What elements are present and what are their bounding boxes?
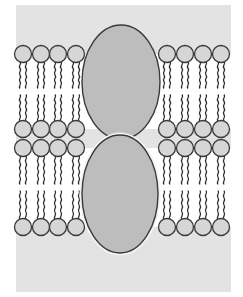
lipid-tail [163, 95, 164, 122]
phospholipid-head [195, 219, 212, 236]
lipid-tail [60, 191, 61, 220]
phospholipid-head [213, 46, 230, 63]
lipid-tail [181, 95, 182, 122]
lipid-tail [223, 95, 224, 122]
lipid-tail [223, 156, 224, 185]
lipid-tail [25, 156, 26, 185]
lipid-tail [169, 95, 170, 122]
phospholipid-head [50, 46, 67, 63]
lipid-tail [181, 191, 182, 220]
lipid-tail [78, 156, 79, 185]
lipid-tail [187, 191, 188, 220]
lipid-tail [54, 156, 55, 185]
phospholipid-head [50, 140, 67, 157]
lipid-tail [37, 191, 38, 220]
phospholipid-head [68, 219, 85, 236]
lipid-tail [37, 156, 38, 185]
lipid-tail [217, 62, 218, 89]
lipid-tail [205, 156, 206, 185]
phospholipid-head [177, 121, 194, 138]
lipid-tail [199, 95, 200, 122]
phospholipid-head [177, 140, 194, 157]
lipid-tail [163, 62, 164, 89]
phospholipid-head [50, 121, 67, 138]
phospholipid-head [159, 46, 176, 63]
membrane-diagram-canvas [0, 0, 243, 297]
lipid-tail [19, 95, 20, 122]
phospholipid-head [159, 121, 176, 138]
phospholipid-head [50, 219, 67, 236]
lipid-tail [217, 95, 218, 122]
phospholipid-head [33, 219, 50, 236]
upper-protein [82, 25, 160, 139]
phospholipid-head [159, 140, 176, 157]
lipid-tail [19, 156, 20, 185]
lipid-tail [169, 62, 170, 89]
lipid-tail [43, 191, 44, 220]
lipid-tail [205, 191, 206, 220]
lipid-tail [163, 191, 164, 220]
lipid-tail [43, 156, 44, 185]
lipid-tail [169, 156, 170, 185]
lipid-tail [37, 62, 38, 89]
lower-protein [82, 135, 158, 253]
lipid-tail [60, 62, 61, 89]
phospholipid-head [33, 121, 50, 138]
lipid-tail [187, 95, 188, 122]
lipid-tail [199, 62, 200, 89]
lipid-tail [205, 62, 206, 89]
lipid-tail [199, 156, 200, 185]
phospholipid-head [213, 140, 230, 157]
lipid-tail [78, 191, 79, 220]
phospholipid-head [68, 121, 85, 138]
phospholipid-head [195, 121, 212, 138]
lipid-tail [25, 95, 26, 122]
phospholipid-head [177, 219, 194, 236]
lipid-tail [169, 191, 170, 220]
lipid-tail [163, 156, 164, 185]
phospholipid-head [15, 46, 32, 63]
lipid-tail [78, 95, 79, 122]
phospholipid-head [68, 46, 85, 63]
lipid-tail [223, 62, 224, 89]
phospholipid-head [15, 219, 32, 236]
lipid-tail [181, 62, 182, 89]
lipid-tail [54, 62, 55, 89]
lipid-tail [54, 191, 55, 220]
phospholipid-head [15, 140, 32, 157]
lipid-tail [72, 95, 73, 122]
lipid-tail [187, 156, 188, 185]
lipid-tail [43, 95, 44, 122]
lipid-tail [187, 62, 188, 89]
lipid-tail [205, 95, 206, 122]
phospholipid-head [213, 121, 230, 138]
phospholipid-head [159, 219, 176, 236]
lipid-tail [72, 191, 73, 220]
phospholipid-head [177, 46, 194, 63]
lipid-tail [60, 156, 61, 185]
phospholipid-head [195, 140, 212, 157]
lipid-tail [72, 156, 73, 185]
lipid-tail [217, 156, 218, 185]
membrane-diagram [0, 0, 243, 297]
lipid-tail [43, 62, 44, 89]
lipid-tail [19, 62, 20, 89]
lipid-tail [25, 62, 26, 89]
phospholipid-head [33, 46, 50, 63]
lipid-tail [72, 62, 73, 89]
phospholipid-head [68, 140, 85, 157]
lipid-tail [60, 95, 61, 122]
lipid-tail [25, 191, 26, 220]
lipid-tail [54, 95, 55, 122]
lipid-tail [181, 156, 182, 185]
phospholipid-head [213, 219, 230, 236]
lipid-tail [37, 95, 38, 122]
lipid-tail [199, 191, 200, 220]
phospholipid-head [195, 46, 212, 63]
lipid-tail [78, 62, 79, 89]
lipid-tail [223, 191, 224, 220]
phospholipid-head [15, 121, 32, 138]
lipid-tail [217, 191, 218, 220]
phospholipid-head [33, 140, 50, 157]
lipid-tail [19, 191, 20, 220]
